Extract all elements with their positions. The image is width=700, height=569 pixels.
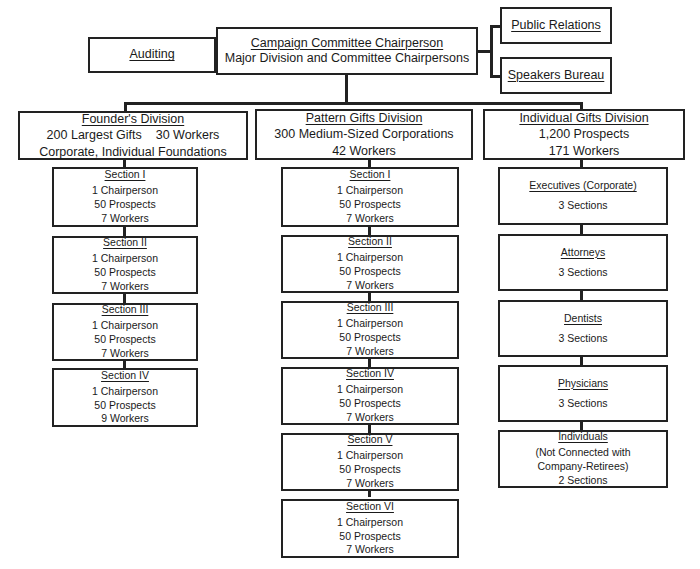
section-title: Dentists	[564, 312, 602, 326]
section-detail: 1 Chairperson	[92, 252, 158, 266]
individual-gifts-division-box: Individual Gifts Division1,200 Prospects…	[483, 109, 685, 160]
division-detail: 171 Workers	[549, 143, 620, 159]
section-box: Section I1 Chairperson50 Prospects7 Work…	[281, 167, 459, 227]
division-detail: Corporate, Individual Foundations	[39, 144, 227, 160]
division-detail: 1,200 Prospects	[539, 126, 629, 142]
division-detail: 42 Workers	[332, 143, 396, 159]
section-detail: 50 Prospects	[339, 265, 400, 279]
section-title: Section I	[350, 168, 391, 182]
section-detail: 3 Sections	[558, 266, 607, 280]
section-box: Section VI1 Chairperson50 Prospects7 Wor…	[281, 499, 459, 558]
section-detail: 1 Chairperson	[337, 184, 403, 198]
section-title: Executives (Corporate)	[529, 179, 636, 193]
section-title: Section IV	[101, 369, 149, 383]
section-title: Section II	[348, 235, 392, 249]
section-detail: 1 Chairperson	[337, 317, 403, 331]
section-box: Physicians3 Sections	[498, 365, 668, 422]
section-detail: 7 Workers	[346, 543, 394, 557]
section-title: Section V	[348, 433, 393, 447]
public-relations-label: Public Relations	[511, 18, 601, 33]
section-detail: 1 Chairperson	[337, 251, 403, 265]
section-title: Section II	[103, 236, 147, 250]
section-detail: 7 Workers	[346, 345, 394, 359]
chair-subtitle: Major Division and Committee Chairperson…	[225, 51, 470, 66]
section-detail: 1 Chairperson	[337, 516, 403, 530]
section-detail: 7 Workers	[346, 411, 394, 425]
section-box: Section II1 Chairperson50 Prospects7 Wor…	[281, 235, 459, 293]
section-detail: 50 Prospects	[339, 397, 400, 411]
chair-title: Campaign Committee Chairperson	[251, 36, 443, 51]
section-detail: 1 Chairperson	[92, 385, 158, 399]
section-title: Attorneys	[561, 246, 605, 260]
speakers-bureau-label: Speakers Bureau	[508, 68, 605, 83]
campaign-chair-box: Campaign Committee Chairperson Major Div…	[216, 27, 478, 75]
section-title: Section III	[347, 301, 394, 315]
section-box: Dentists3 Sections	[498, 300, 668, 357]
section-box: Section III1 Chairperson50 Prospects7 Wo…	[52, 303, 198, 361]
section-detail: 50 Prospects	[339, 198, 400, 212]
connector-chair-down	[345, 73, 348, 105]
connector-pr-sb	[490, 25, 493, 77]
section-detail: 3 Sections	[558, 332, 607, 346]
section-detail: Company-Retirees)	[537, 460, 628, 474]
section-detail: 50 Prospects	[94, 399, 155, 413]
section-box: Section II1 Chairperson50 Prospects7 Wor…	[52, 236, 198, 294]
section-detail: 1 Chairperson	[337, 383, 403, 397]
section-detail: 50 Prospects	[339, 463, 400, 477]
section-detail: 7 Workers	[346, 279, 394, 293]
auditing-box: Auditing	[88, 37, 216, 73]
section-title: Physicians	[558, 377, 608, 391]
section-detail: 3 Sections	[558, 199, 607, 213]
section-detail: 1 Chairperson	[92, 319, 158, 333]
division-detail: 200 Largest Gifts 30 Workers	[47, 127, 220, 143]
division-title: Pattern Gifts Division	[306, 110, 423, 126]
auditing-label: Auditing	[129, 47, 174, 62]
section-title: Section IV	[346, 367, 394, 381]
public-relations-box: Public Relations	[500, 7, 612, 44]
section-detail: 2 Sections	[558, 474, 607, 488]
section-detail: 50 Prospects	[94, 266, 155, 280]
section-title: Section VI	[346, 500, 394, 514]
connector-sb	[490, 75, 500, 78]
section-box: Section IV1 Chairperson50 Prospects7 Wor…	[281, 367, 459, 425]
section-detail: 50 Prospects	[94, 333, 155, 347]
division-bus	[124, 102, 583, 105]
section-box: Section III1 Chairperson50 Prospects7 Wo…	[281, 301, 459, 359]
section-detail: 7 Workers	[346, 477, 394, 491]
section-detail: 7 Workers	[101, 347, 149, 361]
founders-division-box: Founder's Division200 Largest Gifts 30 W…	[18, 111, 248, 160]
section-detail: 7 Workers	[101, 212, 149, 226]
section-detail: 7 Workers	[101, 280, 149, 294]
division-title: Founder's Division	[82, 111, 184, 127]
section-box: Section IV1 Chairperson50 Prospects9 Wor…	[52, 368, 198, 427]
section-title: Individuals	[558, 430, 608, 444]
section-detail: 50 Prospects	[339, 530, 400, 544]
pattern-gifts-division-box: Pattern Gifts Division300 Medium-Sized C…	[255, 109, 473, 160]
section-box: Attorneys3 Sections	[498, 234, 668, 291]
section-box: Executives (Corporate)3 Sections	[498, 167, 668, 225]
section-detail: 7 Workers	[346, 212, 394, 226]
section-title: Section III	[102, 303, 149, 317]
division-detail: 300 Medium-Sized Corporations	[274, 126, 453, 142]
section-detail: 50 Prospects	[94, 198, 155, 212]
section-detail: 1 Chairperson	[92, 184, 158, 198]
section-box: Section V1 Chairperson50 Prospects7 Work…	[281, 433, 459, 491]
section-title: Section I	[105, 168, 146, 182]
section-detail: 3 Sections	[558, 397, 607, 411]
section-box: Section I1 Chairperson50 Prospects7 Work…	[52, 167, 198, 227]
section-detail: 9 Workers	[101, 412, 149, 426]
section-detail: (Not Connected with	[535, 446, 630, 460]
section-box: Individuals(Not Connected withCompany-Re…	[498, 430, 668, 488]
section-detail: 1 Chairperson	[337, 449, 403, 463]
division-title: Individual Gifts Division	[519, 110, 648, 126]
section-detail: 50 Prospects	[339, 331, 400, 345]
connector-pr	[490, 25, 500, 28]
speakers-bureau-box: Speakers Bureau	[500, 57, 612, 94]
